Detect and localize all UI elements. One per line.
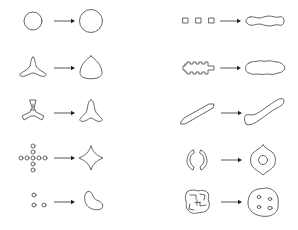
source-three-dots bbox=[32, 193, 46, 207]
arrow-icon bbox=[221, 200, 242, 204]
pair-squares-to-blob bbox=[183, 16, 284, 26]
arrow-icon bbox=[54, 156, 75, 160]
result-bean bbox=[85, 191, 103, 209]
result-lemon-hole bbox=[259, 156, 268, 165]
pair-tripod-to-triangle bbox=[20, 56, 102, 79]
source-facing-arcs bbox=[187, 150, 207, 170]
result-cloud-blob bbox=[246, 61, 285, 75]
pair-circle-to-circle bbox=[24, 10, 103, 33]
pair-three-dots-to-bean bbox=[32, 191, 103, 209]
result-club-shape bbox=[245, 99, 285, 125]
result-lemon-outline bbox=[251, 145, 276, 175]
result-dumbbell-blob bbox=[246, 16, 284, 26]
result-circle bbox=[80, 10, 103, 33]
source-pinwheel bbox=[185, 190, 209, 213]
arrow-icon bbox=[54, 200, 75, 204]
result-three-armed-star bbox=[80, 100, 102, 121]
result-holed-blob bbox=[248, 188, 278, 216]
pair-dots-to-four-point-star bbox=[19, 144, 103, 172]
result-rounded-triangle bbox=[80, 56, 102, 79]
source-three-squares bbox=[183, 18, 214, 23]
diagram-canvas bbox=[0, 0, 298, 230]
source-comb bbox=[183, 62, 214, 74]
arrow-icon bbox=[221, 111, 242, 115]
result-four-pointed-star bbox=[79, 146, 103, 170]
pair-bar-to-club bbox=[181, 99, 284, 125]
arrow-icon bbox=[221, 158, 242, 162]
source-dot-cross bbox=[19, 144, 47, 172]
source-small-circle bbox=[24, 12, 42, 30]
pair-arcs-to-lemon bbox=[187, 145, 275, 175]
source-tripod bbox=[20, 57, 46, 76]
source-slanted-bar bbox=[181, 104, 214, 124]
arrow-icon bbox=[220, 66, 241, 70]
pair-comb-to-cloud bbox=[183, 61, 285, 75]
arrow-icon bbox=[54, 111, 75, 115]
arrow-icon bbox=[54, 66, 75, 70]
arrow-icon bbox=[54, 19, 75, 23]
pair-propeller-to-star bbox=[22, 100, 102, 121]
pair-pinwheel-to-holed-blob bbox=[185, 188, 278, 216]
arrow-icon bbox=[220, 19, 241, 23]
